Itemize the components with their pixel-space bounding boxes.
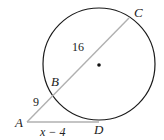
label-AD-length: x − 4 xyxy=(39,125,65,139)
label-A: A xyxy=(14,115,23,130)
label-C: C xyxy=(134,5,143,20)
label-BC-length: 16 xyxy=(72,40,84,54)
label-B: B xyxy=(51,74,59,89)
label-AB-length: 9 xyxy=(33,95,39,109)
secant-line-AC xyxy=(27,18,129,122)
label-D: D xyxy=(93,122,104,137)
circle-center-dot xyxy=(97,63,101,67)
diagram-svg: C 16 B 9 A x − 4 D xyxy=(0,0,164,140)
geometry-diagram: C 16 B 9 A x − 4 D xyxy=(0,0,164,140)
